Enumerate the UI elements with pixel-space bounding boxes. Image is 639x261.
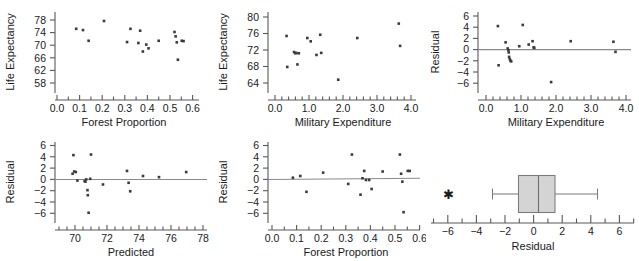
- data-point: [400, 172, 403, 175]
- y-axis-title: Life Expectancy: [4, 13, 16, 91]
- data-point: [361, 177, 364, 180]
- panel-residual-boxplot-svg: ✱: [426, 130, 639, 261]
- panel-residual-vs-forest-svg: 6 4 2 0 −2 −4 −6 Residual: [213, 130, 426, 261]
- data-point: [295, 52, 298, 55]
- y-tick-label: −4: [457, 66, 469, 78]
- data-point: [286, 66, 289, 69]
- data-point: [142, 175, 145, 178]
- data-point: [508, 56, 511, 59]
- y-axis-title: Residual: [217, 161, 229, 204]
- data-point: [507, 49, 510, 52]
- y-tick-label: −2: [34, 184, 46, 196]
- y-axis-group: 78 74 70 66 62 58 Life Expectancy: [4, 12, 55, 93]
- y-tick-label: 0: [40, 173, 46, 185]
- data-point: [319, 33, 322, 36]
- data-point: [173, 31, 176, 34]
- x-tick-label: 0.0: [265, 232, 280, 244]
- x-axis-group: 70 72 74 76 78 Predicted: [55, 225, 209, 258]
- x-axis-title: Forest Proportion: [82, 116, 167, 128]
- data-point: [174, 35, 177, 38]
- x-axis-title: Military Expenditure: [295, 116, 392, 128]
- x-tick-label: 0.3: [117, 102, 132, 114]
- x-axis-group: 0.0 1.0 2.0 3.0 4.0 Military Expenditure: [478, 95, 633, 128]
- x-tick-label: 0.5: [163, 102, 178, 114]
- data-point: [337, 78, 340, 81]
- y-tick-label: −4: [34, 196, 46, 208]
- data-point: [127, 181, 130, 184]
- data-point: [305, 191, 308, 194]
- x-tick-marks: [486, 95, 626, 100]
- y-tick-label: 66: [34, 52, 46, 64]
- y-tick-marks: [50, 146, 55, 214]
- data-point: [399, 45, 402, 48]
- x-axis-group: 0.0 1.0 2.0 3.0 4.0 Military Expenditure: [268, 95, 419, 128]
- y-tick-marks: [263, 146, 268, 214]
- x-tick-label: 0.1: [289, 232, 304, 244]
- y-tick-label: −2: [247, 184, 259, 196]
- y-tick-labels: 78 74 70 66 62 58: [34, 14, 46, 89]
- data-point: [185, 171, 188, 174]
- panel-residual-vs-forest: 6 4 2 0 −2 −4 −6 Residual: [213, 130, 426, 261]
- data-point: [126, 41, 129, 44]
- data-point: [399, 153, 402, 156]
- y-tick-labels: 6 4 2 0 −2 −4 −6: [34, 139, 46, 219]
- panel-residual-boxplot: ✱: [426, 130, 639, 261]
- scatter-points: [497, 24, 617, 84]
- data-point: [90, 153, 93, 156]
- x-tick-label: −6: [442, 225, 454, 237]
- y-tick-label: −4: [247, 196, 259, 208]
- data-point: [129, 28, 132, 31]
- y-tick-label: 76: [247, 27, 259, 39]
- data-point: [75, 171, 78, 174]
- data-point: [497, 64, 500, 67]
- y-tick-label: 68: [247, 60, 259, 72]
- y-tick-label: 4: [463, 21, 469, 33]
- y-tick-label: 70: [34, 39, 46, 51]
- data-point: [614, 51, 617, 54]
- x-tick-label: 3.0: [584, 102, 599, 114]
- x-tick-marks: [57, 95, 193, 100]
- x-tick-labels: 0.0 1.0 2.0 3.0 4.0: [268, 102, 419, 114]
- x-axis-title: Military Expenditure: [508, 116, 605, 128]
- data-point: [102, 183, 105, 186]
- x-tick-labels: 0.0 0.1 0.2 0.3 0.4 0.5 0.6: [265, 232, 426, 244]
- data-point: [381, 170, 384, 173]
- data-point: [533, 47, 536, 50]
- y-tick-marks: [473, 16, 478, 83]
- y-tick-label: 0: [463, 43, 469, 55]
- x-axis-title: Residual: [512, 240, 555, 252]
- y-tick-label: 4: [253, 151, 259, 163]
- x-tick-label: 76: [165, 232, 177, 244]
- data-point: [137, 42, 140, 45]
- data-point: [86, 189, 89, 192]
- data-point: [139, 29, 142, 32]
- data-point: [142, 50, 145, 53]
- y-axis-group: 80 76 72 68 64 Life Expectancy: [217, 11, 268, 93]
- panel-residual-vs-military-svg: 6 4 2 0 −2 −4 −6 Residual: [426, 0, 639, 131]
- data-point: [363, 170, 366, 173]
- x-axis-title: Forest Proportion: [304, 246, 389, 258]
- y-tick-label: 58: [34, 77, 46, 89]
- data-point: [292, 176, 295, 179]
- data-point: [75, 28, 78, 31]
- data-point: [85, 178, 88, 181]
- data-point: [550, 81, 553, 84]
- data-point: [87, 194, 90, 197]
- data-point: [76, 179, 79, 182]
- data-point: [72, 154, 75, 157]
- data-point: [518, 45, 521, 48]
- data-point: [129, 190, 132, 193]
- x-tick-label: 0: [531, 225, 537, 237]
- x-axis-group: −6 −4 −2 0 2 4 6 Residual: [431, 215, 634, 252]
- x-tick-label: 0.0: [50, 102, 65, 114]
- x-tick-label: 0.0: [479, 102, 494, 114]
- panel-residual-vs-predicted-svg: 6 4 2 0 −2 −4 −6 Residual: [0, 130, 213, 261]
- data-point: [397, 22, 400, 25]
- data-point: [84, 180, 87, 183]
- x-tick-labels: −6 −4 −2 0 2 4 6: [442, 225, 623, 237]
- x-tick-label: 0.4: [140, 102, 155, 114]
- data-point: [320, 52, 323, 55]
- data-point: [510, 60, 513, 63]
- y-tick-label: 0: [253, 173, 259, 185]
- x-tick-label: 2: [559, 225, 565, 237]
